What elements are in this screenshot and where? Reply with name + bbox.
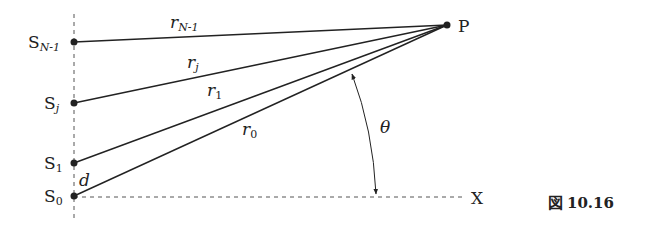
angle-theta-arc bbox=[352, 74, 376, 194]
source-dot-n-1 bbox=[71, 39, 78, 46]
ray-r-0 bbox=[74, 25, 447, 196]
source-dot-j bbox=[71, 100, 78, 107]
ray-r-1 bbox=[74, 25, 447, 163]
source-dot-0 bbox=[71, 193, 78, 200]
angle-theta-label: θ bbox=[380, 117, 390, 137]
ray-r-n-1 bbox=[74, 25, 447, 42]
ray-label-r-1: r1 bbox=[207, 80, 222, 102]
point-p-label: P bbox=[458, 16, 469, 36]
x-axis-label: X bbox=[471, 188, 484, 208]
ray-label-r-j: rj bbox=[187, 52, 199, 74]
source-label-0: S0 bbox=[44, 186, 63, 208]
point-p-dot bbox=[444, 22, 451, 29]
source-label-n-1: SN-1 bbox=[28, 32, 60, 54]
spacing-label-d: d bbox=[79, 170, 90, 190]
source-dot-1 bbox=[71, 160, 78, 167]
source-label-1: S1 bbox=[44, 153, 63, 175]
figure-caption: 図10.16 bbox=[548, 194, 614, 212]
ray-label-r-n-1: rN-1 bbox=[170, 12, 198, 34]
source-label-j: Sj bbox=[44, 93, 60, 115]
diagram-canvas: P SN-1 Sj S1 S0 rN-1 rj r1 r0 d θ X 図10.… bbox=[0, 0, 648, 234]
ray-label-r-0: r0 bbox=[242, 119, 257, 141]
ray-r-j bbox=[74, 25, 447, 103]
